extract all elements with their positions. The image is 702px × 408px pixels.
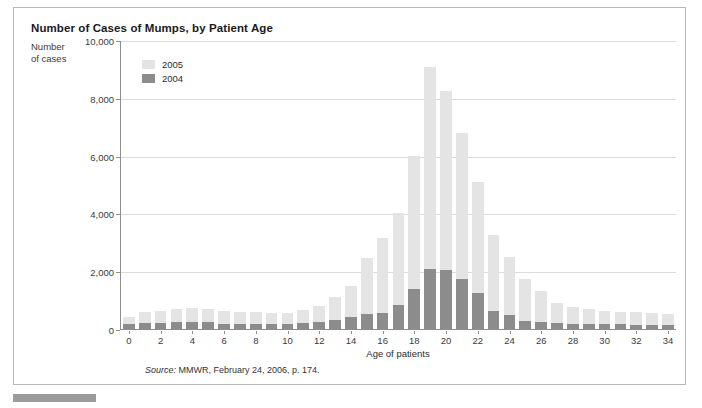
x-tick-mark	[636, 331, 637, 334]
x-tick-mark	[510, 331, 511, 334]
bar-segment-2005	[377, 238, 389, 313]
x-tick-mark	[414, 331, 415, 334]
bar-column	[456, 133, 468, 329]
y-axis-title: Number of cases	[31, 41, 91, 64]
bar-column	[377, 238, 389, 329]
bar-segment-2004	[123, 324, 135, 329]
bar-column	[504, 257, 516, 329]
bar-segment-2005	[345, 286, 357, 317]
bar-column	[266, 313, 278, 329]
y-tick-label: 8,000	[90, 93, 114, 104]
footer-accent-bar	[13, 394, 96, 402]
x-tick-mark	[256, 331, 257, 334]
legend-label-2004: 2004	[162, 73, 183, 84]
plot-frame: 02,0004,0006,0008,00010,000	[120, 41, 676, 330]
bar-column	[488, 235, 500, 329]
x-tick-label: 12	[314, 335, 325, 346]
legend-item: 2005	[142, 58, 183, 70]
bar-segment-2005	[171, 309, 183, 323]
source-label: Source:	[145, 365, 176, 375]
bar-series-group	[121, 41, 676, 329]
bar-segment-2005	[408, 156, 420, 288]
bar-column	[630, 312, 642, 329]
legend-label-2005: 2005	[162, 59, 183, 70]
x-tick-mark	[319, 331, 320, 334]
bar-segment-2004	[646, 325, 658, 329]
bar-segment-2004	[599, 324, 611, 329]
bar-segment-2005	[472, 182, 484, 293]
bar-segment-2004	[551, 323, 563, 329]
bar-column	[218, 311, 230, 329]
bar-segment-2004	[488, 311, 500, 329]
bar-segment-2004	[329, 320, 341, 329]
x-tick-label: 28	[568, 335, 579, 346]
bar-column	[234, 312, 246, 329]
chart-title: Number of Cases of Mumps, by Patient Age	[31, 22, 273, 34]
bar-column	[202, 309, 214, 329]
bar-segment-2004	[250, 324, 262, 329]
bar-segment-2005	[234, 312, 246, 324]
x-tick-mark	[192, 331, 193, 334]
x-tick-label: 26	[536, 335, 547, 346]
bar-segment-2005	[519, 279, 531, 320]
bar-segment-2005	[583, 309, 595, 324]
y-tick-label: 0	[109, 325, 114, 336]
bar-column	[171, 309, 183, 329]
bar-segment-2005	[567, 307, 579, 324]
x-tick-label: 16	[377, 335, 388, 346]
source-note: Source: MMWR, February 24, 2006, p. 174.	[145, 365, 320, 375]
bar-segment-2005	[139, 312, 151, 324]
bar-segment-2004	[139, 323, 151, 329]
bar-segment-2005	[456, 133, 468, 278]
y-tick-label: 6,000	[90, 151, 114, 162]
bar-column	[551, 303, 563, 329]
bar-segment-2005	[488, 235, 500, 311]
bar-column	[535, 291, 547, 329]
bar-segment-2004	[504, 315, 516, 329]
x-tick-label: 4	[190, 335, 195, 346]
x-tick-label: 10	[282, 335, 293, 346]
bar-segment-2005	[186, 308, 198, 322]
bar-column	[599, 311, 611, 329]
bar-column	[361, 258, 373, 329]
bar-segment-2004	[393, 305, 405, 329]
bar-segment-2004	[218, 324, 230, 329]
x-tick-mark	[224, 331, 225, 334]
x-tick-label: 24	[504, 335, 515, 346]
bar-segment-2005	[361, 258, 373, 314]
x-tick-label: 0	[126, 335, 131, 346]
y-tick-mark	[116, 330, 120, 331]
x-tick-mark	[573, 331, 574, 334]
bar-segment-2004	[155, 323, 167, 329]
bar-segment-2004	[567, 324, 579, 329]
figure-panel: Number of Cases of Mumps, by Patient Age…	[13, 7, 686, 385]
bar-segment-2004	[456, 279, 468, 329]
bar-column	[123, 317, 135, 329]
bar-column	[567, 307, 579, 329]
bar-segment-2005	[250, 312, 262, 324]
bar-column	[519, 279, 531, 329]
x-tick-mark	[351, 331, 352, 334]
bar-segment-2004	[377, 313, 389, 329]
x-tick-mark	[668, 331, 669, 334]
bar-segment-2005	[218, 311, 230, 323]
bar-segment-2004	[297, 323, 309, 329]
bar-column	[329, 297, 341, 329]
bar-segment-2004	[186, 322, 198, 329]
legend-swatch-2004	[142, 74, 155, 83]
x-tick-label: 32	[631, 335, 642, 346]
bar-segment-2005	[297, 310, 309, 324]
bar-segment-2005	[630, 312, 642, 324]
bar-segment-2005	[599, 311, 611, 325]
x-tick-label: 22	[472, 335, 483, 346]
bar-column	[345, 286, 357, 329]
bar-column	[186, 308, 198, 329]
bar-segment-2005	[266, 313, 278, 323]
bar-column	[250, 312, 262, 329]
x-tick-label: 30	[599, 335, 610, 346]
plot-area: 02,0004,0006,0008,00010,000	[120, 41, 676, 330]
bar-segment-2004	[202, 322, 214, 329]
x-tick-label: 14	[346, 335, 357, 346]
bar-segment-2005	[393, 213, 405, 306]
bar-segment-2004	[662, 325, 674, 329]
